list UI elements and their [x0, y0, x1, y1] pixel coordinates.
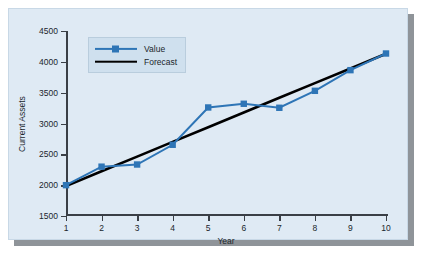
y-tick-label: 4500	[39, 26, 58, 36]
x-tick	[350, 216, 351, 221]
value-data-point	[134, 161, 140, 167]
value-data-point	[98, 163, 104, 169]
chart-panel: 1500200025003000350040004500 12345678910…	[8, 8, 408, 240]
x-tick-label: 8	[313, 223, 318, 233]
plot-area: 1500200025003000350040004500 12345678910…	[66, 31, 386, 216]
x-tick	[208, 216, 209, 221]
value-data-point	[63, 182, 69, 188]
x-tick	[66, 216, 67, 221]
x-tick	[315, 216, 316, 221]
x-tick-label: 2	[99, 223, 104, 233]
value-data-point	[347, 67, 353, 73]
legend-label-value: Value	[144, 44, 165, 54]
legend-key-forecast-icon	[95, 56, 137, 67]
legend-item-forecast: Forecast	[95, 55, 177, 68]
x-tick-label: 10	[381, 223, 390, 233]
value-data-point	[276, 105, 282, 111]
x-tick-label: 3	[135, 223, 140, 233]
x-tick	[244, 216, 245, 221]
x-tick	[137, 216, 138, 221]
value-data-point	[241, 101, 247, 107]
y-tick-label: 2000	[39, 180, 58, 190]
x-tick-label: 9	[348, 223, 353, 233]
x-tick-label: 6	[241, 223, 246, 233]
x-tick	[279, 216, 280, 221]
x-tick	[386, 216, 387, 221]
chart-legend: Value Forecast	[88, 37, 186, 73]
chart-screenshot: 1500200025003000350040004500 12345678910…	[0, 0, 424, 263]
y-tick-label: 3000	[39, 119, 58, 129]
y-axis-title: Current Assets	[17, 96, 27, 152]
y-tick-label: 1500	[39, 211, 58, 221]
x-axis-title: Year	[217, 236, 234, 246]
x-tick	[173, 216, 174, 221]
value-data-point	[383, 50, 389, 56]
legend-label-forecast: Forecast	[144, 57, 177, 67]
value-data-point	[169, 142, 175, 148]
value-data-point	[205, 104, 211, 110]
legend-key-value-icon	[95, 43, 137, 54]
y-tick-label: 4000	[39, 57, 58, 67]
x-tick-label: 4	[170, 223, 175, 233]
y-tick-label: 2500	[39, 149, 58, 159]
x-tick	[102, 216, 103, 221]
x-tick-label: 5	[206, 223, 211, 233]
legend-item-value: Value	[95, 42, 177, 55]
x-tick-label: 1	[64, 223, 69, 233]
value-data-point	[312, 88, 318, 94]
y-tick-label: 3500	[39, 88, 58, 98]
x-tick-label: 7	[277, 223, 282, 233]
